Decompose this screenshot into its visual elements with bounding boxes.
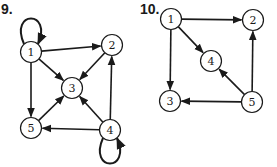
edge-4-to-2 <box>110 56 111 119</box>
node-5: 5 <box>21 118 42 139</box>
node-label: 2 <box>250 14 257 27</box>
edge-1-to-2 <box>181 19 241 20</box>
node-5: 5 <box>242 92 263 113</box>
edge-1-to-3 <box>39 59 63 80</box>
node-4: 4 <box>201 51 222 72</box>
edge-4-to-5 <box>42 128 99 129</box>
node-label: 1 <box>28 46 35 59</box>
node-1: 1 <box>21 42 42 63</box>
node-1: 1 <box>161 9 182 30</box>
edge-5-to-4 <box>219 69 244 94</box>
edge-2-to-3 <box>80 53 105 80</box>
diagram-label: 9. <box>1 1 13 17</box>
node-label: 2 <box>109 39 116 52</box>
self-loop-edge-4 <box>100 138 120 164</box>
edge-4-to-3 <box>80 97 103 123</box>
edge-5-to-3 <box>181 101 241 102</box>
node-2: 2 <box>243 10 264 31</box>
node-label: 3 <box>167 95 174 108</box>
edge-1-to-2 <box>41 46 100 51</box>
node-label: 4 <box>208 55 215 68</box>
node-4: 4 <box>100 120 121 141</box>
self-loop-edge-1 <box>21 19 41 45</box>
diagram-label: 10. <box>140 1 159 17</box>
edge-1-to-4 <box>178 27 203 53</box>
node-label: 1 <box>168 13 175 26</box>
node-label: 5 <box>249 96 256 109</box>
edge-5-to-2 <box>252 31 253 91</box>
node-2: 2 <box>102 35 123 56</box>
node-3: 3 <box>62 78 83 99</box>
node-3: 3 <box>160 91 181 112</box>
edge-1-to-3 <box>170 29 171 89</box>
node-label: 5 <box>28 122 35 135</box>
node-label: 4 <box>107 124 114 137</box>
graph-canvas: 1234512435 9.10. <box>0 0 277 167</box>
node-label: 3 <box>69 82 76 95</box>
edge-5-to-3 <box>39 96 64 121</box>
